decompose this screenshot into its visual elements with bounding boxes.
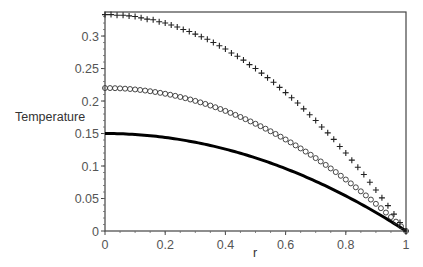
- circle-marker: [313, 156, 318, 161]
- series-plus-markers: [102, 12, 409, 234]
- circle-marker: [278, 134, 283, 139]
- plus-marker: [222, 46, 228, 52]
- y-tick-label: 0.15: [75, 127, 99, 141]
- plus-marker: [295, 100, 301, 106]
- circle-marker: [353, 185, 358, 190]
- y-tick-label: 0.1: [82, 160, 99, 174]
- circle-marker: [383, 210, 388, 215]
- circle-marker: [233, 112, 238, 117]
- circle-marker: [178, 94, 183, 99]
- circle-marker: [343, 177, 348, 182]
- x-axis-title: r: [253, 246, 257, 260]
- series-solid-line: [105, 134, 406, 231]
- circle-marker: [303, 149, 308, 154]
- circle-marker: [248, 119, 253, 124]
- circle-marker: [183, 96, 188, 101]
- plus-marker: [259, 70, 265, 76]
- circle-marker: [118, 86, 123, 91]
- plus-marker: [198, 34, 204, 40]
- circle-marker: [133, 87, 138, 92]
- plus-marker: [234, 53, 240, 59]
- circle-marker: [113, 86, 118, 91]
- plus-marker: [385, 203, 391, 209]
- circle-marker: [108, 86, 113, 91]
- x-tick-label: 1: [403, 238, 410, 252]
- plus-marker: [301, 106, 307, 112]
- circle-marker: [203, 101, 208, 106]
- plus-marker: [150, 17, 156, 23]
- plus-marker: [132, 14, 138, 20]
- circle-marker: [268, 129, 273, 134]
- circle-marker: [253, 121, 258, 126]
- plus-marker: [361, 171, 367, 177]
- circle-marker: [333, 170, 338, 175]
- circle-marker: [148, 89, 153, 94]
- x-tick-label: 0.8: [337, 238, 354, 252]
- circle-marker: [198, 100, 203, 105]
- circle-marker: [258, 124, 263, 129]
- plus-marker: [355, 164, 361, 170]
- y-tick-label: 0.25: [75, 62, 99, 76]
- plus-marker: [325, 130, 331, 136]
- circle-marker: [358, 189, 363, 194]
- plus-marker: [156, 19, 162, 25]
- plus-marker: [313, 118, 319, 124]
- plus-marker: [349, 157, 355, 163]
- plus-marker: [343, 150, 349, 156]
- circle-marker: [308, 152, 313, 157]
- y-tick-label: 0.2: [82, 95, 99, 109]
- circle-marker: [158, 90, 163, 95]
- circle-marker: [283, 137, 288, 142]
- plus-marker: [283, 90, 289, 96]
- circle-marker: [388, 215, 393, 220]
- x-tick-label: 0.6: [277, 238, 294, 252]
- plus-marker: [126, 13, 132, 19]
- plus-marker: [277, 84, 283, 90]
- circle-marker: [243, 117, 248, 122]
- plus-marker: [240, 57, 246, 63]
- temperature-chart: 00.050.10.150.20.250.3 00.20.40.60.81 Te…: [0, 0, 423, 267]
- circle-marker: [238, 114, 243, 119]
- circle-marker: [263, 126, 268, 131]
- plus-marker: [168, 22, 174, 28]
- circle-marker: [288, 140, 293, 145]
- circle-marker: [153, 90, 158, 95]
- circle-marker: [293, 143, 298, 148]
- circle-marker: [328, 166, 333, 171]
- circle-marker: [208, 103, 213, 108]
- plus-marker: [210, 40, 216, 46]
- plus-marker: [246, 62, 252, 68]
- circle-marker: [138, 87, 143, 92]
- y-axis: 00.050.10.150.20.250.3: [75, 17, 105, 239]
- plus-marker: [337, 144, 343, 150]
- y-tick-label: 0: [92, 225, 99, 239]
- circle-marker: [173, 93, 178, 98]
- plus-marker: [319, 124, 325, 130]
- plus-marker: [379, 195, 385, 201]
- circle-marker: [348, 181, 353, 186]
- plus-marker: [228, 50, 234, 56]
- plus-marker: [204, 36, 210, 42]
- plus-marker: [391, 211, 397, 217]
- circle-marker: [373, 201, 378, 206]
- circle-marker: [163, 91, 168, 96]
- x-tick-label: 0.4: [217, 238, 234, 252]
- x-tick-label: 0: [102, 238, 109, 252]
- y-tick-label: 0.3: [82, 30, 99, 44]
- circle-marker: [363, 193, 368, 198]
- circle-marker: [368, 197, 373, 202]
- x-tick-label: 0.2: [157, 238, 174, 252]
- plus-marker: [253, 66, 259, 72]
- plus-marker: [162, 20, 168, 26]
- circle-marker: [143, 88, 148, 93]
- plus-marker: [216, 43, 222, 49]
- circle-marker: [378, 206, 383, 211]
- circle-marker: [213, 105, 218, 110]
- plus-marker: [307, 112, 313, 118]
- plus-marker: [331, 136, 337, 142]
- plus-marker: [180, 27, 186, 33]
- plus-marker: [265, 75, 271, 81]
- series-circle-markers: [103, 86, 409, 234]
- plus-marker: [144, 16, 150, 22]
- circle-marker: [123, 86, 128, 91]
